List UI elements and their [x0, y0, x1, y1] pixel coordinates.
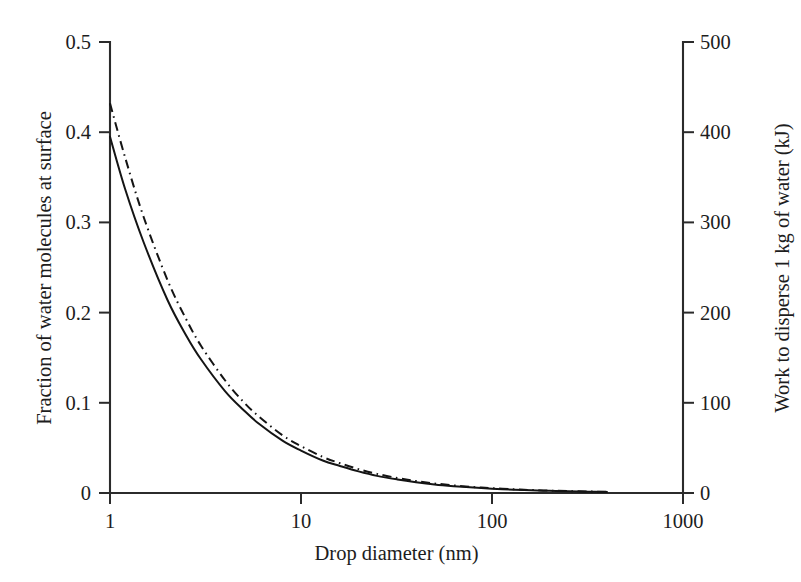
x-axis-title: Drop diameter (nm) — [315, 543, 479, 564]
series-line-dashdot — [110, 103, 607, 491]
y-axis-title: Fraction of water molecules at surface — [34, 111, 55, 425]
plot-area — [0, 0, 801, 582]
right-tick-label-3: 300 — [700, 212, 770, 233]
bottom-tick-label-3: 1000 — [638, 511, 728, 532]
bottom-tick-label-2: 100 — [447, 511, 537, 532]
bottom-axis-ticks — [110, 493, 683, 504]
secondary-y-axis-title: Work to disperse 1 kg of water (kJ) — [772, 123, 793, 412]
bottom-tick-label-0: 1 — [65, 511, 155, 532]
right-axis-ticks — [683, 42, 694, 493]
right-tick-label-5: 500 — [700, 32, 770, 53]
bottom-tick-label-1: 10 — [256, 511, 346, 532]
right-tick-label-4: 400 — [700, 122, 770, 143]
left-axis-ticks — [99, 42, 110, 493]
chart-figure: 00.10.20.30.40.5 0100200300400500 110100… — [0, 0, 801, 582]
right-tick-label-2: 200 — [700, 303, 770, 324]
right-tick-label-0: 0 — [700, 483, 770, 504]
right-tick-label-1: 100 — [700, 393, 770, 414]
left-tick-label-5: 0.5 — [31, 32, 91, 53]
left-tick-label-0: 0 — [31, 483, 91, 504]
